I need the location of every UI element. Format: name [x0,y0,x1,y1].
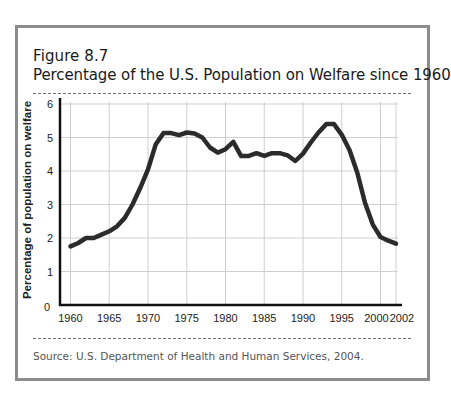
x-tick-label: 2002 [390,312,414,324]
x-tick-label: 1965 [97,312,121,324]
y-tick-label: 3 [47,199,53,211]
x-tick-label: 1975 [175,312,199,324]
x-tick-label: 2000 [364,312,388,324]
x-tick-label: 1960 [58,312,82,324]
y-tick-label: 6 [47,98,53,110]
y-tick-label: 1 [47,266,53,278]
y-tick-label: 4 [47,165,53,177]
x-tick-label: 1995 [330,312,354,324]
x-tick-label: 1980 [213,312,237,324]
chart-grid [60,102,398,305]
x-tick-label: 1990 [291,312,315,324]
x-tick-label: 1985 [252,312,276,324]
y-tick-label: 0 [44,301,50,313]
y-tick-label: 5 [47,132,53,144]
y-tick-label: 2 [47,232,53,244]
chart-axes [59,98,402,306]
source-note: Source: U.S. Department of Health and Hu… [33,350,364,362]
axis-ticks: 0123456196019651970197519801985199019952… [44,98,414,324]
x-tick-label: 1970 [136,312,160,324]
bottom-divider [33,338,411,339]
series-line [71,124,397,246]
